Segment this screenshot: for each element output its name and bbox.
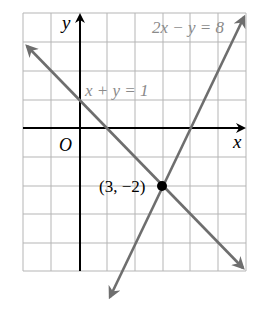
line1-label: x + y = 1	[84, 81, 149, 100]
intersection-point	[157, 181, 167, 191]
origin-label: O	[59, 135, 72, 155]
line2-label: 2x − y = 8	[152, 18, 225, 37]
coordinate-graph: y x O x + y = 1 2x − y = 8 (3, −2)	[0, 0, 265, 328]
intersection-label: (3, −2)	[99, 177, 145, 196]
y-axis-label: y	[60, 12, 71, 33]
grid	[23, 13, 246, 271]
x-axis-label: x	[232, 131, 242, 152]
